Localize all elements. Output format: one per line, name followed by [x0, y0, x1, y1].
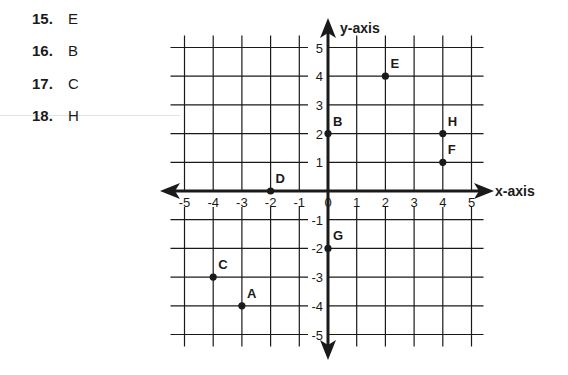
y-tick-label: 2	[316, 127, 323, 142]
x-tick-label: 0	[324, 195, 331, 210]
point-h-dot	[439, 130, 446, 137]
x-tick-label: -2	[265, 195, 277, 210]
axes	[160, 18, 494, 360]
y-tick-label: -5	[311, 328, 323, 343]
coordinate-plane: -5-4-3-2-101234554321-1-2-3-4-5 ABCDEFGH…	[0, 0, 568, 375]
point-e-label: E	[390, 56, 399, 71]
x-tick-label: 1	[353, 195, 360, 210]
point-g-dot	[324, 245, 331, 252]
x-tick-label: 5	[468, 195, 475, 210]
point-b-label: B	[333, 114, 342, 129]
y-tick-label: -3	[311, 270, 323, 285]
y-tick-label: 1	[316, 155, 323, 170]
x-tick-label: -1	[294, 195, 306, 210]
x-tick-label: 4	[439, 195, 446, 210]
point-d-dot	[267, 187, 274, 194]
point-g-label: G	[333, 228, 343, 243]
x-axis-label: x-axis	[495, 183, 535, 199]
point-f-label: F	[448, 142, 456, 157]
x-tick-label: 2	[382, 195, 389, 210]
point-a-label: A	[247, 286, 257, 301]
x-tick-label: 3	[410, 195, 417, 210]
y-tick-label: 5	[316, 41, 323, 56]
y-tick-label: 3	[316, 98, 323, 113]
point-c-dot	[210, 274, 217, 281]
y-tick-label: -1	[311, 213, 323, 228]
point-c-label: C	[218, 257, 228, 272]
point-a-dot	[238, 302, 245, 309]
y-tick-label: 4	[316, 69, 323, 84]
x-tick-label: -5	[179, 195, 191, 210]
point-h-label: H	[448, 114, 457, 129]
point-b-dot	[324, 130, 331, 137]
data-points: ABCDEFGH	[210, 56, 458, 309]
y-tick-label: -4	[311, 299, 323, 314]
point-d-label: D	[276, 171, 285, 186]
point-e-dot	[382, 73, 389, 80]
x-tick-label: -3	[236, 195, 248, 210]
y-tick-label: -2	[311, 241, 323, 256]
point-f-dot	[439, 159, 446, 166]
x-tick-label: -4	[207, 195, 219, 210]
y-axis-label: y-axis	[340, 20, 380, 36]
